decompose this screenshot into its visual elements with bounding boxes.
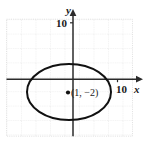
point-coordinate-label: (1, −2) [71,88,98,98]
y-axis-label: y [66,5,71,16]
x-axis-tick-label: 10 [116,84,127,95]
coordinate-plane [0,0,145,143]
x-axis-label: x [134,84,140,95]
graph-figure: y x 10 10 (1, −2) [0,0,145,143]
x-axis-arrowhead [136,76,143,83]
y-axis-tick-label: 10 [56,18,67,29]
point-marker [66,90,70,94]
grid [7,19,133,136]
